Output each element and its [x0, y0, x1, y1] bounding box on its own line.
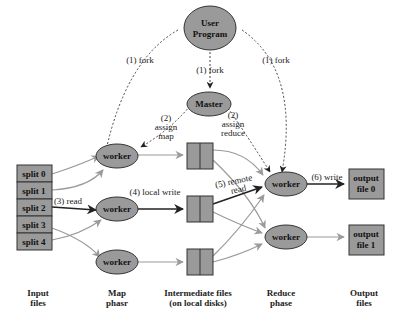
- svg-text:files: files: [356, 298, 372, 308]
- user-program-node: User Program: [184, 6, 236, 50]
- caption-intermediate-files: Intermediate files (on local disks): [164, 288, 232, 308]
- svg-text:Output: Output: [350, 288, 378, 298]
- fork-edge-right: [242, 30, 286, 172]
- label-write: (6) write: [311, 172, 342, 182]
- svg-text:User: User: [201, 18, 219, 28]
- split-0: split 0: [22, 169, 46, 179]
- map-worker-2: worker: [96, 250, 138, 274]
- output-file-1: output file 1: [349, 225, 384, 255]
- label-assign-map: (2) assign map: [155, 113, 178, 141]
- caption-input-files: Input files: [27, 288, 49, 308]
- split-1: split 1: [22, 186, 46, 196]
- svg-text:Intermediate files: Intermediate files: [164, 288, 232, 298]
- label-fork-left: (1) fork: [126, 55, 154, 65]
- svg-text:read: read: [230, 183, 248, 196]
- intermediate-file-2: [187, 249, 213, 275]
- label-fork-center: (1) fork: [196, 65, 224, 75]
- svg-text:file 1: file 1: [357, 240, 376, 250]
- svg-text:map: map: [158, 131, 174, 141]
- svg-text:worker: worker: [103, 257, 131, 267]
- intermediate-file-0: [187, 143, 213, 169]
- split-2: split 2: [22, 203, 46, 213]
- label-local-write: (4) local write: [130, 187, 181, 197]
- map-worker-0: worker: [96, 144, 138, 168]
- reduce-worker-1: worker: [265, 225, 307, 249]
- svg-text:output: output: [353, 229, 379, 239]
- svg-text:Map: Map: [108, 288, 126, 298]
- caption-reduce-phase: Reduce phase: [267, 288, 296, 308]
- label-fork-right: (1) fork: [262, 55, 290, 65]
- svg-text:(on local disks): (on local disks): [169, 298, 227, 308]
- svg-text:Reduce: Reduce: [267, 288, 296, 298]
- svg-text:phase: phase: [270, 298, 292, 308]
- svg-text:Master: Master: [195, 99, 222, 109]
- master-node: Master: [187, 92, 231, 116]
- svg-text:Program: Program: [193, 29, 228, 39]
- svg-text:worker: worker: [272, 179, 300, 189]
- label-assign-reduce: (2) assign reduce: [221, 110, 245, 138]
- intermediate-file-1: [187, 196, 213, 222]
- split-4: split 4: [22, 237, 46, 247]
- reduce-worker-0: worker: [265, 172, 307, 196]
- svg-text:worker: worker: [103, 151, 131, 161]
- svg-text:file 0: file 0: [357, 184, 376, 194]
- svg-text:worker: worker: [272, 232, 300, 242]
- split-3: split 3: [22, 220, 46, 230]
- map-worker-1: worker: [96, 197, 138, 221]
- svg-text:Input: Input: [27, 288, 49, 298]
- label-read: (3) read: [54, 196, 83, 206]
- output-file-0: output file 0: [349, 169, 384, 199]
- svg-text:worker: worker: [103, 204, 131, 214]
- svg-text:files: files: [30, 298, 46, 308]
- svg-text:reduce: reduce: [221, 128, 245, 138]
- svg-text:output: output: [353, 173, 379, 183]
- label-remote-read: (5) remote read: [214, 172, 255, 198]
- svg-text:phasr: phasr: [106, 298, 128, 308]
- caption-output-files: Output files: [350, 288, 378, 308]
- caption-map-phase: Map phasr: [106, 288, 128, 308]
- mapreduce-diagram: User Program Master worker worker worker…: [0, 0, 398, 323]
- input-splits: split 0 split 1 split 2 split 3 split 4: [17, 165, 52, 250]
